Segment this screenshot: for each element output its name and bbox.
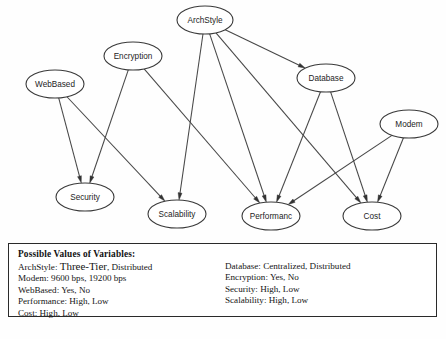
- arrowhead-modem-to-performance: [288, 199, 295, 205]
- node-label-cost: Cost: [364, 212, 382, 221]
- legend-value-emphasized: Three-Tier: [60, 260, 107, 272]
- arrowhead-webbased-to-security: [78, 176, 82, 183]
- edge-encryption-to-performance: [144, 69, 256, 199]
- legend-variable-values: Yes, No: [61, 285, 90, 295]
- legend-variable-name: ArchStyle: [18, 262, 55, 272]
- edge-archstyle-to-database: [225, 30, 300, 66]
- nodes-layer: ArchStyleEncryptionDatabaseWebBasedModem…: [26, 6, 438, 230]
- node-label-database: Database: [308, 74, 343, 83]
- node-label-performance: Performanc: [250, 212, 292, 221]
- legend-variable-name: Modem: [18, 273, 46, 283]
- legend-entry-scalability: Scalability: High, Low: [225, 295, 425, 306]
- node-database[interactable]: Database: [297, 64, 355, 92]
- legend-entry-webbased: WebBased: Yes, No: [18, 285, 225, 296]
- legend-entry-database: Database: Centralized, Distributed: [225, 261, 425, 272]
- legend-entry-modem: Modem: 9600 bps, 19200 bps: [18, 273, 225, 284]
- node-webbased[interactable]: WebBased: [26, 70, 84, 98]
- legend-entry-archstyle: ArchStyle: Three-Tier, Distributed: [18, 261, 225, 273]
- edge-database-to-performance: [279, 92, 321, 197]
- node-performance[interactable]: Performanc: [242, 202, 300, 230]
- legend-variable-values: High, Low: [69, 296, 108, 306]
- legend-column-left: ArchStyle: Three-Tier, DistributedModem:…: [18, 261, 225, 319]
- legend-entry-security: Security: High, Low: [225, 284, 425, 295]
- legend-variable-values: Yes, No: [270, 272, 299, 282]
- node-encryption[interactable]: Encryption: [104, 42, 162, 70]
- edge-encryption-to-security: [92, 70, 129, 178]
- node-scalability[interactable]: Scalability: [148, 200, 206, 228]
- arrowhead-archstyle-to-performance: [262, 195, 266, 202]
- legend-variable-name: Performance: [18, 296, 64, 306]
- edge-webbased-to-security: [59, 98, 80, 178]
- node-modem[interactable]: Modem: [380, 110, 438, 138]
- legend-variable-values: High, Low: [40, 308, 79, 318]
- arrowhead-encryption-to-security: [90, 176, 94, 183]
- legend-title: Possible Values of Variables:: [18, 249, 436, 260]
- edge-modem-to-cost: [380, 138, 404, 197]
- legend-variable-name: Database: [225, 261, 258, 271]
- legend-variable-values: Centralized, Distributed: [263, 261, 350, 271]
- legend-variable-name: WebBased: [18, 285, 57, 295]
- bayesian-network-graph: ArchStyleEncryptionDatabaseWebBasedModem…: [0, 0, 446, 240]
- legend-variable-name: Encryption: [225, 272, 265, 282]
- arrowhead-database-to-cost: [363, 195, 367, 202]
- legend-entry-performance: Performance: High, Low: [18, 296, 225, 307]
- node-label-scalability: Scalability: [159, 210, 197, 219]
- legend-variable-values: High, Low: [260, 284, 299, 294]
- node-cost[interactable]: Cost: [343, 202, 401, 230]
- arrowhead-archstyle-to-database: [298, 63, 305, 68]
- node-security[interactable]: Security: [56, 183, 114, 211]
- arrowhead-database-to-performance: [276, 195, 281, 202]
- edge-database-to-cost: [331, 92, 366, 197]
- legend-box: Possible Values of Variables: ArchStyle:…: [8, 243, 437, 317]
- arrowhead-archstyle-to-scalability: [178, 193, 182, 200]
- legend-columns: ArchStyle: Three-Tier, DistributedModem:…: [18, 261, 436, 319]
- legend-variable-name: Cost: [18, 308, 35, 318]
- node-label-webbased: WebBased: [35, 80, 75, 89]
- node-label-archstyle: ArchStyle: [187, 16, 222, 25]
- legend-entry-encryption: Encryption: Yes, No: [225, 272, 425, 283]
- legend-variable-name: Security: [225, 284, 255, 294]
- legend-variable-values: 9600 bps, 19200 bps: [51, 273, 126, 283]
- diagram-page: ArchStyleEncryptionDatabaseWebBasedModem…: [0, 0, 446, 339]
- node-label-security: Security: [70, 193, 100, 202]
- legend-variable-values: High, Low: [269, 295, 308, 305]
- legend-variable-name: Scalability: [225, 295, 264, 305]
- legend-variable-values: Three-Tier, Distributed: [60, 262, 153, 272]
- legend-entry-cost: Cost: High, Low: [18, 308, 225, 319]
- arrowhead-modem-to-cost: [378, 195, 383, 202]
- legend-column-right: Database: Centralized, DistributedEncryp…: [225, 261, 425, 307]
- node-archstyle[interactable]: ArchStyle: [177, 6, 233, 34]
- node-label-encryption: Encryption: [114, 52, 153, 61]
- edge-modem-to-performance: [293, 135, 392, 201]
- node-label-modem: Modem: [395, 120, 422, 129]
